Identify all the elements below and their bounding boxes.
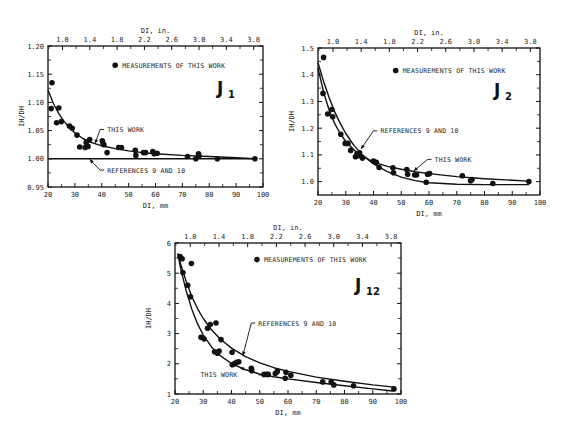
data-point: [56, 105, 62, 111]
y-tick-label: 1: [167, 391, 171, 399]
y-tick-label: 1.15: [27, 71, 44, 79]
y-tick-label: 3: [167, 330, 171, 338]
annotation-label: THIS WORK: [107, 126, 144, 134]
data-point: [423, 179, 429, 185]
data-point: [526, 179, 532, 185]
data-point: [331, 382, 337, 388]
panel-label-subscript: 12: [366, 286, 380, 297]
y-tick-label: 2: [167, 360, 171, 368]
x-tick-label: 50: [256, 398, 264, 406]
data-point: [391, 386, 397, 392]
x2-tick-label: 1.4: [213, 233, 226, 241]
x-tick-label: 100: [257, 191, 270, 199]
chart-panel-j2: 20304050607080901001.01.41.82.22.63.03.4…: [288, 29, 546, 218]
x-tick-label: 20: [171, 398, 179, 406]
x2-axis-title: DI, in.: [414, 29, 444, 37]
data-point: [288, 373, 294, 379]
x-tick-label: 100: [534, 199, 547, 207]
data-point: [201, 336, 207, 342]
x-tick-label: 60: [284, 398, 292, 406]
data-point: [351, 383, 357, 389]
data-point: [216, 348, 222, 354]
data-point: [196, 153, 202, 159]
x2-tick-label: 2.2: [411, 38, 424, 46]
x-tick-label: 80: [205, 191, 213, 199]
x-tick-label: 70: [312, 398, 320, 406]
data-point: [208, 322, 214, 328]
data-point: [218, 337, 224, 343]
x2-tick-label: 1.8: [383, 38, 396, 46]
data-point: [321, 55, 327, 61]
data-point: [154, 150, 160, 156]
data-point: [320, 379, 326, 385]
annotation-leader: [243, 323, 256, 356]
data-point: [101, 142, 107, 148]
x-tick-label: 30: [199, 398, 207, 406]
x-tick-label: 60: [425, 199, 433, 207]
data-point: [338, 132, 344, 138]
x-tick-label: 40: [98, 191, 106, 199]
x-tick-label: 50: [124, 191, 132, 199]
y-tick-label: 1.10: [27, 99, 44, 107]
legend-label: MEASUREMENTS OF THIS WORK: [122, 62, 225, 70]
data-point: [119, 145, 125, 151]
x-tick-label: 80: [480, 199, 488, 207]
data-point: [49, 80, 55, 86]
panel-label-subscript: 2: [505, 91, 512, 102]
x2-tick-label: 2.6: [165, 36, 178, 44]
y-tick-label: 1.1: [301, 151, 314, 159]
panel-label-subscript: 1: [228, 89, 235, 100]
x2-tick-label: 3.4: [356, 233, 369, 241]
data-point: [414, 172, 420, 178]
x2-tick-label: 3.0: [193, 36, 206, 44]
x2-tick-label: 1.0: [327, 38, 340, 46]
x-tick-label: 30: [342, 199, 350, 207]
annotation-label: REFERENCES 9 AND 10: [107, 167, 185, 175]
data-point: [357, 150, 363, 156]
data-point: [48, 106, 54, 112]
annotation-label: THIS WORK: [200, 371, 237, 379]
data-point: [179, 256, 185, 262]
data-point: [54, 120, 60, 126]
data-point: [265, 372, 271, 378]
data-point: [59, 119, 65, 125]
x2-tick-label: 2.6: [299, 233, 312, 241]
y-tick-label: 1.05: [27, 127, 44, 135]
data-point: [104, 150, 110, 156]
chart-panel-j1: 20304050607080901001.01.41.82.22.63.03.4…: [18, 27, 269, 210]
x2-axis-title: DI, in.: [273, 224, 303, 232]
x2-axis-title: DI, in.: [141, 27, 171, 35]
x2-tick-label: 1.4: [83, 36, 96, 44]
data-point: [275, 369, 281, 375]
annotation-arrowhead-icon: [361, 145, 365, 149]
y-tick-label: 6: [167, 240, 171, 248]
x2-tick-label: 1.8: [241, 233, 254, 241]
legend-label: MEASUREMENTS OF THIS WORK: [403, 67, 506, 75]
data-point: [329, 107, 335, 113]
data-point: [143, 150, 149, 156]
legend-marker: [393, 68, 399, 74]
data-point: [185, 154, 191, 160]
y-tick-label: 1.4: [301, 71, 314, 79]
data-point: [374, 160, 380, 166]
chart-panel-j12: 20304050607080901001.01.41.82.22.63.03.4…: [145, 224, 407, 417]
legend-label: MEASUREMENTS OF THIS WORK: [264, 256, 367, 264]
data-point: [74, 132, 80, 138]
data-point: [188, 294, 194, 300]
data-point: [390, 165, 396, 171]
y-tick-label: 1.20: [27, 43, 44, 51]
x2-tick-label: 3.0: [468, 38, 481, 46]
data-point: [213, 320, 219, 326]
data-point: [405, 171, 411, 177]
x-tick-label: 90: [508, 199, 516, 207]
x2-tick-label: 3.4: [496, 38, 509, 46]
data-point: [77, 144, 83, 150]
x2-tick-label: 2.2: [270, 233, 283, 241]
data-point: [185, 283, 191, 289]
annotation-arrowhead-icon: [240, 367, 244, 370]
data-point: [376, 165, 382, 171]
x-tick-label: 80: [340, 398, 348, 406]
annotation-label: REFERENCES 9 AND 10: [258, 320, 336, 328]
y-tick-label: 1.00: [27, 155, 44, 163]
x2-tick-label: 3.0: [327, 233, 340, 241]
